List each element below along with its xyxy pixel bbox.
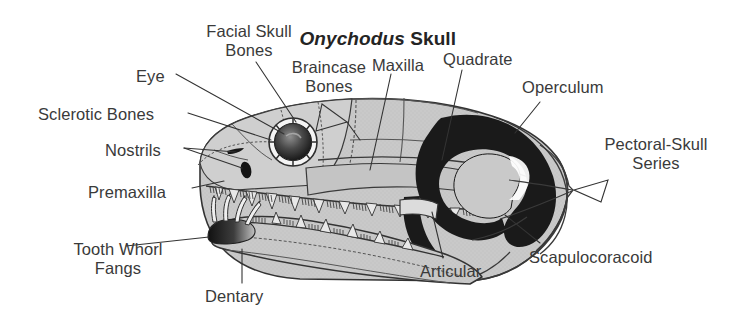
leader-operculum xyxy=(515,102,540,133)
label-scapulocoracoid: Scapulocoracoid xyxy=(529,248,719,267)
label-quadrate: Quadrate xyxy=(443,50,543,69)
title-rest: Skull xyxy=(405,28,456,49)
label-dentary: Dentary xyxy=(205,287,305,306)
title-genus: Onychodus xyxy=(299,28,404,49)
eye-with-sclerotic-ring xyxy=(269,118,317,166)
bracket-pectoral-skull-series xyxy=(574,180,608,202)
label-braincase-bones: Braincase Bones xyxy=(276,58,382,96)
label-eye: Eye xyxy=(136,67,182,86)
label-articular: Articular xyxy=(420,262,520,281)
label-nostrils: Nostrils xyxy=(105,141,187,160)
label-premaxilla: Premaxilla xyxy=(88,183,198,202)
label-sclerotic-bones: Sclerotic Bones xyxy=(38,105,188,124)
label-facial-skull-bones: Facial Skull Bones xyxy=(189,22,309,60)
label-operculum: Operculum xyxy=(522,78,642,97)
onychodus-skull-figure: Onychodus Skull Facial Skull Bones Brain… xyxy=(0,0,734,325)
label-pectoral-skull-series: Pectoral-Skull Series xyxy=(588,135,724,173)
label-tooth-whorl-fangs: Tooth Whorl Fangs xyxy=(56,240,180,278)
